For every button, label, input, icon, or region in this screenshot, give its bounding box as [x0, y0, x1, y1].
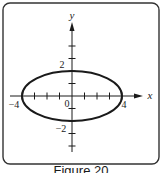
figure: yx−442−20 Figure 20: [0, 0, 162, 173]
figure-caption: Figure 20: [0, 164, 162, 173]
origin-label: 0: [65, 98, 70, 109]
x-axis-arrow-icon: [134, 94, 143, 99]
y-tick-label-2: 2: [60, 59, 65, 70]
x-tick-label-neg4: −4: [9, 99, 20, 110]
y-axis-arrow-icon: [70, 22, 75, 31]
ellipse-graph: yx−442−20: [0, 0, 162, 173]
x-axis-label: x: [147, 89, 153, 101]
y-tick-label-neg2: −2: [56, 123, 67, 134]
axes: [10, 22, 143, 152]
x-tick-label-4: 4: [122, 99, 127, 110]
y-axis-label: y: [69, 9, 75, 21]
figure-frame: [3, 3, 159, 164]
